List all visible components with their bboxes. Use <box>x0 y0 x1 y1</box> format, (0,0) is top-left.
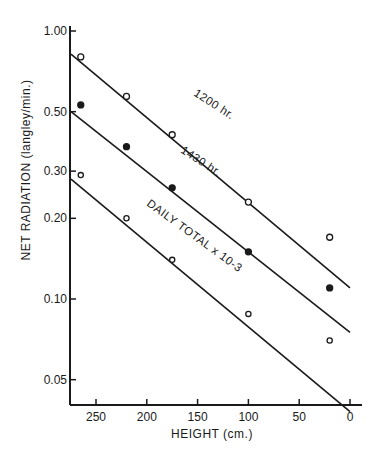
data-point <box>124 216 129 221</box>
x-tick-label: 100 <box>238 410 258 424</box>
x-tick-label: 50 <box>293 410 307 424</box>
data-point <box>78 172 83 177</box>
label-1430-hr: 1430 hr. <box>179 144 224 179</box>
data-point <box>78 102 84 108</box>
data-point <box>246 311 251 316</box>
data-point <box>169 132 175 138</box>
x-tick-label: 0 <box>347 410 354 424</box>
y-tick-label: 0.50 <box>44 105 68 119</box>
data-point <box>78 54 84 60</box>
data-point <box>327 338 332 343</box>
data-point <box>245 249 251 255</box>
data-point <box>327 234 333 240</box>
fit-line <box>71 112 350 333</box>
y-tick-label: 0.30 <box>44 164 68 178</box>
axes: 1.000.500.300.200.100.05250200150100500 <box>44 24 362 424</box>
y-tick-label: 0.10 <box>44 292 68 306</box>
data-point <box>327 285 333 291</box>
y-tick-label: 0.20 <box>44 211 68 225</box>
data-point <box>123 144 129 150</box>
data-point <box>170 257 175 262</box>
data-point <box>245 199 251 205</box>
net-radiation-chart: 1.000.500.300.200.100.05250200150100500 … <box>0 0 382 460</box>
y-tick-label: 0.05 <box>44 373 68 387</box>
x-tick-label: 150 <box>188 410 208 424</box>
fit-line <box>71 179 350 411</box>
label-1200-hr: 1200 hr. <box>192 87 237 122</box>
x-axis-title: HEIGHT (cm.) <box>171 427 253 441</box>
x-tick-label: 200 <box>137 410 157 424</box>
y-axis-title: NET RADIATION (langley/min.) <box>19 80 33 261</box>
x-tick-label: 250 <box>86 410 106 424</box>
y-tick-label: 1.00 <box>44 24 68 38</box>
label-daily-total: DAILY TOTAL x 10-3 <box>145 197 245 274</box>
data-point <box>169 185 175 191</box>
data-point <box>123 93 129 99</box>
